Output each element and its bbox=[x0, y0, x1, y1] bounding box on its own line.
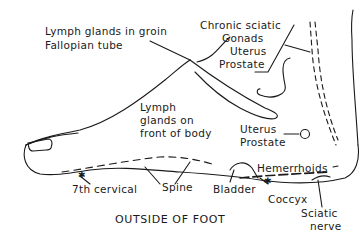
label-gonads: Gonads bbox=[222, 32, 264, 44]
label-sciatic-nerve-line2: nerve bbox=[310, 220, 342, 232]
label-prostate-mid: Prostate bbox=[240, 136, 286, 148]
label-chronic-sciatic: Chronic sciatic bbox=[200, 19, 281, 31]
label-lymph-glands-in-groin: Lymph glands in groin bbox=[45, 25, 167, 37]
uterus-prostate-circle bbox=[301, 130, 310, 139]
label-uterus-mid: Uterus bbox=[240, 123, 277, 135]
label-coccyx: Coccyx bbox=[268, 193, 308, 205]
leader-sciatic-nerve bbox=[318, 180, 322, 207]
label-prostate-top: Prostate bbox=[219, 58, 265, 70]
sciatic-heel-curve bbox=[312, 176, 330, 180]
label-seventh-cervical: 7th cervical bbox=[72, 183, 137, 195]
label-fallopian-tube: Fallopian tube bbox=[45, 39, 123, 51]
label-spine: Spine bbox=[162, 181, 193, 193]
sciatic-dashed-line-1 bbox=[310, 22, 336, 145]
label-lymph-front-line2: glands on bbox=[140, 114, 194, 126]
label-hemorrhoids: Hemerrhoids bbox=[257, 162, 328, 174]
label-uterus-top: Uterus bbox=[230, 45, 267, 57]
label-bladder: Bladder bbox=[213, 183, 256, 195]
label-sciatic-nerve-line1: Sciatic bbox=[301, 207, 338, 219]
label-lymph-front-line1: Lymph bbox=[140, 101, 176, 113]
diagram-caption: OUTSIDE OF FOOT bbox=[115, 214, 225, 226]
leader-uterus-top bbox=[285, 45, 310, 52]
leader-hemorrhoids bbox=[333, 166, 338, 167]
seventh-cervical-star: ✱ bbox=[78, 170, 86, 180]
heel-outline bbox=[352, 10, 358, 145]
label-lymph-front-line3: front of body bbox=[140, 127, 212, 139]
toenail bbox=[28, 139, 52, 151]
leader-lymph-groin bbox=[150, 41, 190, 60]
sciatic-dashed-line-2 bbox=[315, 22, 338, 140]
